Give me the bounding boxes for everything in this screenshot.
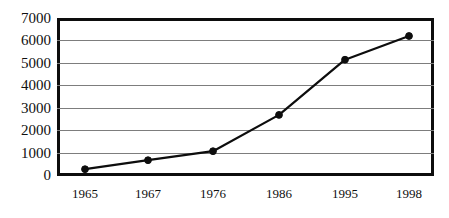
- data-point-marker: [342, 56, 349, 63]
- data-point-marker: [210, 148, 217, 155]
- y-axis-tick-label: 3000: [0, 101, 51, 116]
- x-axis-tick-label: 1967: [118, 186, 178, 201]
- x-axis-tick-label: 1998: [379, 186, 439, 201]
- plot-canvas: [57, 18, 434, 176]
- data-point-marker: [406, 33, 413, 40]
- y-axis-tick-label: 1000: [0, 146, 51, 161]
- series-group: [82, 33, 413, 173]
- y-axis-tick-label: 5000: [0, 56, 51, 71]
- data-point-marker: [145, 157, 152, 164]
- line-chart: 7000 6000 5000 4000 3000 2000 1000 0 196…: [0, 0, 449, 218]
- x-axis-tick-label: 1976: [183, 186, 243, 201]
- gridlines: [57, 41, 434, 154]
- data-point-marker: [82, 166, 89, 173]
- y-axis-tick-label: 4000: [0, 78, 51, 93]
- y-axis-tick-label: 6000: [0, 33, 51, 48]
- y-axis-tick-label: 0: [0, 168, 51, 183]
- x-axis-tick-label: 1995: [315, 186, 375, 201]
- y-axis-tick-label: 2000: [0, 123, 51, 138]
- x-axis-tick-label: 1965: [55, 186, 115, 201]
- series-line: [85, 36, 409, 169]
- data-point-marker: [276, 112, 283, 119]
- x-axis-tick-label: 1986: [249, 186, 309, 201]
- y-axis-tick-label: 7000: [0, 11, 51, 26]
